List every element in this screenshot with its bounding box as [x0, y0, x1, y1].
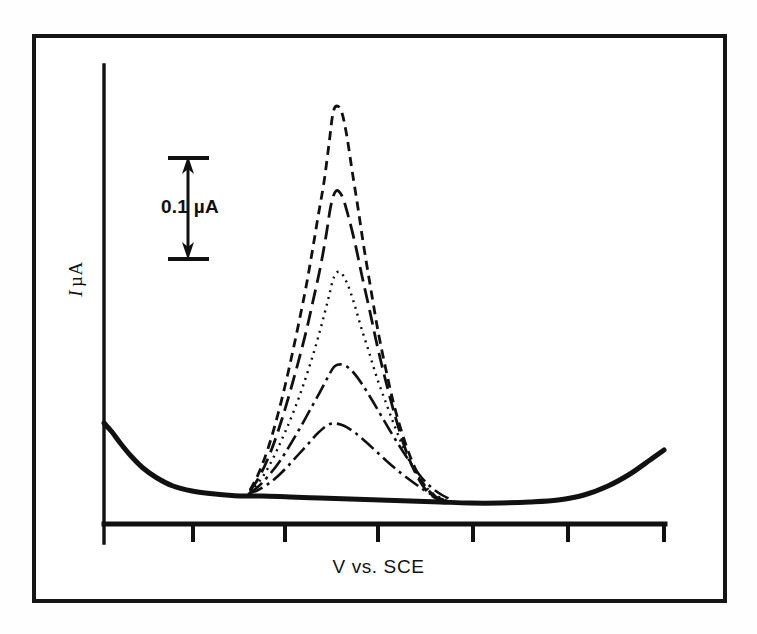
plot-frame-border [32, 34, 727, 603]
y-axis-label-unit: µA [65, 261, 86, 287]
figure-root: IµA V vs. SCE 0.1 µA [0, 0, 757, 634]
y-axis-label: IµA [65, 249, 87, 309]
x-axis-label: V vs. SCE [0, 556, 757, 578]
y-axis-label-symbol: I [65, 287, 86, 297]
scale-bar-label: 0.1 µA [128, 196, 252, 218]
